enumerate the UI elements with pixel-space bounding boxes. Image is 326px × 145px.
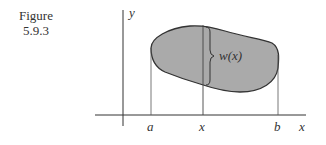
marker-a-label: a bbox=[147, 119, 154, 134]
region-shape bbox=[151, 26, 279, 92]
marker-b-label: b bbox=[274, 119, 281, 134]
y-axis-label: y bbox=[127, 5, 135, 20]
marker-x-label: x bbox=[198, 119, 205, 134]
x-axis-label: x bbox=[298, 119, 305, 134]
diagram: y w(x) a x b x bbox=[0, 0, 326, 145]
width-label: w(x) bbox=[219, 48, 242, 63]
